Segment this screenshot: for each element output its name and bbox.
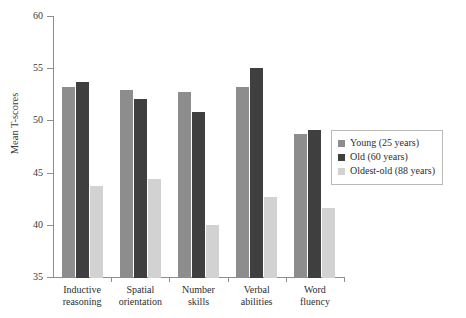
x-axis-tick bbox=[344, 277, 345, 282]
x-axis-tick bbox=[228, 277, 229, 282]
legend-label: Oldest-old (88 years) bbox=[350, 166, 435, 176]
bar-group bbox=[228, 16, 286, 278]
x-axis-tick bbox=[169, 277, 170, 282]
y-axis-tick-label: 45 bbox=[3, 168, 43, 178]
legend-item: Oldest-old (88 years) bbox=[338, 164, 435, 178]
bar bbox=[134, 99, 147, 278]
chart-figure: Mean T-scores 354045505560 Inductivereas… bbox=[0, 0, 466, 318]
bar bbox=[76, 82, 89, 278]
bar bbox=[178, 92, 191, 278]
x-axis-tick bbox=[111, 277, 112, 282]
legend-swatch-icon bbox=[338, 140, 345, 147]
bar bbox=[264, 197, 277, 278]
x-axis-label-line: Word bbox=[272, 284, 358, 296]
y-axis-tick-label: 60 bbox=[3, 11, 43, 21]
x-axis-label-line: fluency bbox=[272, 296, 358, 308]
y-axis-tick-label: 50 bbox=[3, 115, 43, 125]
legend-item: Young (25 years) bbox=[338, 136, 435, 150]
bar bbox=[322, 208, 335, 278]
bar-group bbox=[169, 16, 227, 278]
legend-swatch-icon bbox=[338, 154, 345, 161]
bar bbox=[148, 179, 161, 278]
y-axis-tick-label: 55 bbox=[3, 63, 43, 73]
bar bbox=[294, 134, 307, 278]
bar-group bbox=[53, 16, 111, 278]
bar bbox=[90, 186, 103, 278]
legend: Young (25 years)Old (60 years)Oldest-old… bbox=[331, 130, 443, 185]
x-axis-tick-label: Wordfluency bbox=[272, 284, 358, 308]
bar bbox=[206, 225, 219, 278]
bar bbox=[250, 68, 263, 278]
y-axis-tick-label: 40 bbox=[3, 220, 43, 230]
legend-label: Young (25 years) bbox=[350, 138, 419, 148]
bar bbox=[236, 87, 249, 278]
bar bbox=[120, 90, 133, 278]
y-axis-tick-label: 35 bbox=[3, 272, 43, 282]
legend-swatch-icon bbox=[338, 168, 345, 175]
bar-group bbox=[111, 16, 169, 278]
bar bbox=[308, 130, 321, 278]
x-axis-tick bbox=[286, 277, 287, 282]
bar bbox=[62, 87, 75, 278]
legend-label: Old (60 years) bbox=[350, 152, 408, 162]
bar bbox=[192, 112, 205, 278]
plot-area bbox=[53, 16, 343, 278]
legend-item: Old (60 years) bbox=[338, 150, 435, 164]
